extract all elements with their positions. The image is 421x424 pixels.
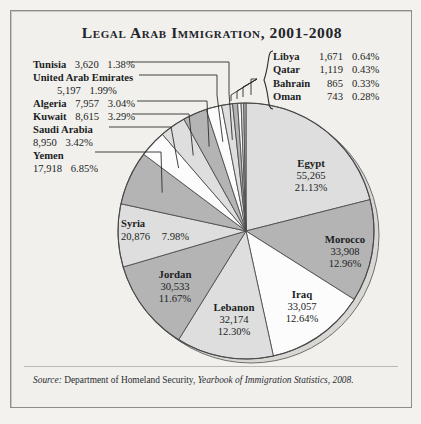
leader-label-uae: United Arab Emirates 5,197 1.99% [33, 72, 133, 97]
right-label-row: Libya 1,671 0.64% [273, 51, 379, 64]
source-prefix: Source: [33, 375, 62, 385]
chart-figure: Legal Arab Immigration, 2001-2008 Egypt … [10, 10, 412, 408]
leader-label-algeria: Algeria 7,957 3.04% [33, 98, 135, 111]
source-agency: Department of Homeland Security, [64, 375, 195, 385]
source-note: Source: Department of Homeland Security,… [33, 375, 403, 385]
slice-label-jordan: Jordan 30,533 11.67% [134, 268, 216, 306]
leader-oman [231, 79, 257, 101]
leader-label-kuwait: Kuwait 8,615 3.29% [33, 111, 135, 124]
leader-label-saudi-arabia: Saudi Arabia 8,950 3.42% [33, 124, 93, 149]
leader-label-yemen: Yemen 17,918 6.85% [33, 150, 98, 175]
right-label-row: Qatar 1,119 0.43% [273, 64, 379, 77]
source-divider [24, 366, 398, 367]
slice-label-lebanon: Lebanon 32,174 12.30% [193, 301, 275, 339]
source-publication: Yearbook of Immigration Statistics, 2008… [198, 375, 354, 385]
slice-label-egypt: Egypt 55,265 21.13% [266, 157, 356, 195]
slice-label-syria: Syria 20,876 7.98% [121, 218, 189, 243]
leader-label-tunisia: Tunisia 3,620 1.38% [33, 59, 135, 72]
slice-label-iraq: Iraq 33,057 12.64% [266, 288, 338, 326]
right-label-row: Bahrain 865 0.33% [273, 78, 379, 91]
right-label-group: Libya 1,671 0.64% Qatar 1,119 0.43% Bahr… [273, 51, 379, 105]
slice-label-morocco: Morocco 33,908 12.96% [299, 233, 391, 271]
leader-qatar [243, 79, 257, 97]
right-label-row: Oman 743 0.28% [273, 91, 379, 104]
